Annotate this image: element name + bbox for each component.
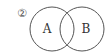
- venn-svg: ② A B: [0, 0, 110, 56]
- set-a-label: A: [42, 22, 52, 36]
- set-a-circle: [30, 7, 74, 51]
- item-number-marker: ②: [17, 7, 27, 20]
- venn-diagram: ② A B: [0, 0, 110, 56]
- set-b-label: B: [82, 22, 91, 36]
